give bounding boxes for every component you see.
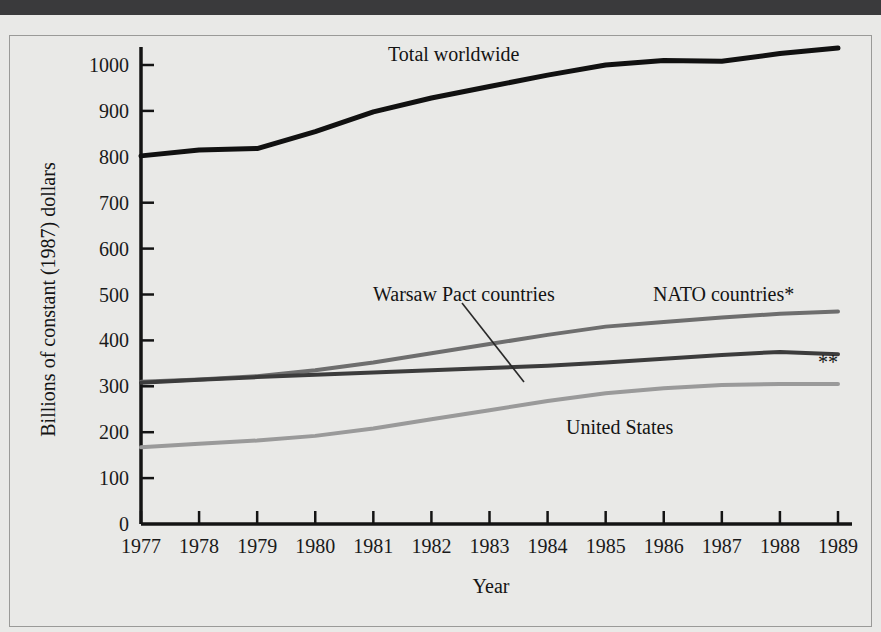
y-tick-label: 1000 (61, 55, 129, 75)
y-tick-label: 100 (61, 468, 129, 488)
y-tick-label: 800 (61, 147, 129, 167)
y-tick-label: 300 (61, 376, 129, 396)
series-annotation-label: Total worldwide (388, 44, 519, 64)
y-tick-label: 400 (61, 330, 129, 350)
figure-page: 01002003004005006007008009001000 1977197… (0, 0, 881, 632)
series-annotation-label: ** (818, 352, 838, 372)
y-tick-label: 500 (61, 285, 129, 305)
chart-series (141, 48, 838, 447)
series-annotation-label: Warsaw Pact countries (373, 284, 555, 304)
series-annotation-label: NATO countries* (653, 284, 794, 304)
y-axis-title: Billions of constant (1987) dollars (37, 140, 60, 460)
series-line (141, 352, 838, 383)
y-tick-label: 200 (61, 422, 129, 442)
series-line (141, 384, 838, 447)
series-line (141, 311, 838, 381)
y-tick-label: 0 (61, 514, 129, 534)
y-tick-label: 600 (61, 239, 129, 259)
x-axis-title: Year (141, 575, 841, 598)
y-tick-label: 900 (61, 101, 129, 121)
y-tick-label: 700 (61, 193, 129, 213)
series-annotation-label: United States (566, 417, 673, 437)
x-tick-label: 1989 (803, 536, 873, 556)
